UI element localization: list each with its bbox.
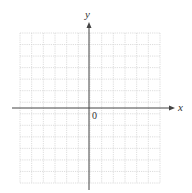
x-axis-label: x <box>177 101 183 113</box>
origin-label: 0 <box>92 110 97 121</box>
y-axis-label: y <box>84 8 90 20</box>
y-axis-arrow-icon <box>87 22 92 28</box>
x-axis-arrow-icon <box>169 106 175 111</box>
axes <box>12 22 175 190</box>
coordinate-plane: x y 0 <box>0 0 192 193</box>
